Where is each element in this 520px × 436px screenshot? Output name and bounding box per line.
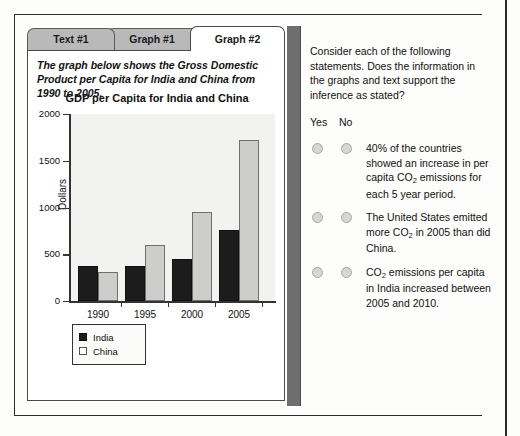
bar-india-2005 <box>219 230 239 302</box>
y-axis-label: Dollars <box>57 165 68 225</box>
tab-label: Graph #1 <box>129 33 175 45</box>
x-label-1990: 1990 <box>78 309 118 320</box>
x-label-2005: 2005 <box>219 309 259 320</box>
tab-graph-1[interactable]: Graph #1 <box>106 28 198 50</box>
x-tick-1990 <box>121 302 122 307</box>
bar-china-1995 <box>145 245 165 301</box>
tab-text-1[interactable]: Text #1 <box>27 28 115 50</box>
stimulus-body: The graph below shows the Gross Domestic… <box>27 50 285 401</box>
y-tick-label: 1500 <box>39 155 60 166</box>
answer-column-headers: Yes No <box>310 116 488 132</box>
gdp-bar-chart: Dollars 2000 1500 1000 500 0 <box>36 111 282 341</box>
tab-graph-2[interactable]: Graph #2 <box>190 26 285 51</box>
bar-india-1990 <box>78 266 98 301</box>
tab-bar: Text #1 Graph #1 Graph #2 <box>27 26 285 50</box>
radio-yes-statement-3[interactable] <box>312 267 323 278</box>
y-tick-500: 500 <box>63 254 69 255</box>
y-tick-label: 500 <box>44 248 60 259</box>
x-tick-2000 <box>215 302 216 307</box>
bar-india-1995 <box>125 266 145 302</box>
stimulus-panel: Text #1 Graph #1 Graph #2 The graph belo… <box>27 26 285 401</box>
radio-yes-statement-2[interactable] <box>312 212 323 223</box>
x-tick-2005 <box>262 302 263 307</box>
chart-legend: India China <box>72 324 146 365</box>
x-axis-line <box>69 301 276 303</box>
assessment-page: Text #1 Graph #1 Graph #2 The graph belo… <box>0 0 520 436</box>
bar-china-2000 <box>192 212 212 301</box>
active-tab-merge <box>191 49 284 52</box>
panel-divider <box>287 26 301 406</box>
tab-label: Text #1 <box>53 33 88 45</box>
x-label-1995: 1995 <box>125 309 165 320</box>
bar-china-2005 <box>239 140 259 301</box>
legend-swatch-china <box>79 347 87 355</box>
column-header-yes: Yes <box>310 116 327 128</box>
statement-row-3: CO2 emissions per capita in India increa… <box>310 265 488 311</box>
y-tick-1000: 1000 <box>63 208 69 209</box>
page-right-rule <box>505 0 507 436</box>
y-tick-label: 1000 <box>39 202 60 213</box>
question-panel: Consider each of the following statement… <box>310 44 488 310</box>
legend-label-china: China <box>93 346 118 357</box>
statement-row-1: 40% of the countries showed an increase … <box>310 141 488 201</box>
y-tick-0: 0 <box>63 301 69 302</box>
radio-yes-statement-1[interactable] <box>312 143 323 154</box>
radio-no-statement-3[interactable] <box>341 267 352 278</box>
y-tick-label: 0 <box>55 295 60 306</box>
legend-item-china: China <box>79 344 139 358</box>
radio-no-statement-2[interactable] <box>341 212 352 223</box>
statement-row-2: The United States emitted more CO2 in 20… <box>310 210 488 256</box>
y-tick-label: 2000 <box>39 108 60 119</box>
y-tick-2000: 2000 <box>63 114 69 115</box>
y-tick-1500: 1500 <box>63 161 69 162</box>
question-prompt: Consider each of the following statement… <box>310 44 482 102</box>
legend-item-india: India <box>79 330 139 344</box>
y-axis-line <box>69 114 71 302</box>
chart-title: GDP per Capita for India and China <box>28 92 286 104</box>
x-label-2000: 2000 <box>172 309 212 320</box>
bar-china-1990 <box>98 272 118 301</box>
x-tick-1995 <box>168 302 169 307</box>
bar-india-2000 <box>172 259 192 301</box>
column-header-no: No <box>339 116 352 128</box>
legend-swatch-india <box>79 333 87 341</box>
statement-text-1: 40% of the countries showed an increase … <box>366 141 492 201</box>
statement-text-2: The United States emitted more CO2 in 20… <box>366 210 492 256</box>
tab-label: Graph #2 <box>215 33 261 45</box>
statement-text-3: CO2 emissions per capita in India increa… <box>366 265 492 311</box>
legend-label-india: India <box>93 332 114 343</box>
radio-no-statement-1[interactable] <box>341 143 352 154</box>
